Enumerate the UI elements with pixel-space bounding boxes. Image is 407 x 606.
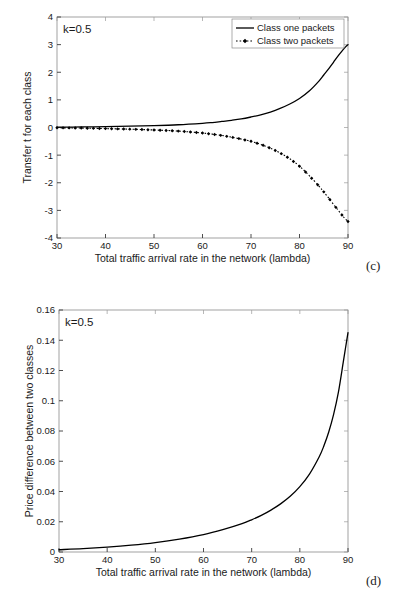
series-marker-1 — [140, 128, 143, 131]
series-marker-1 — [152, 128, 155, 131]
series-marker-1 — [104, 127, 107, 130]
subplot-d: 3040506070809000.020.040.060.080.10.120.… — [0, 290, 407, 606]
series-marker-1 — [158, 129, 161, 132]
x-tick-label: 30 — [52, 240, 63, 251]
x-tick-label: 80 — [294, 240, 305, 251]
x-axis-label: Total traffic arrival rate in the networ… — [96, 566, 312, 578]
y-tick-label: 3 — [48, 39, 53, 50]
y-tick-label: -3 — [45, 205, 53, 216]
y-axis-label: Transfer t for each class — [21, 71, 33, 183]
x-tick-label: 40 — [100, 240, 111, 251]
y-tick-label: 0.16 — [37, 304, 56, 315]
series-marker-1 — [213, 133, 216, 136]
series-marker-1 — [280, 152, 283, 155]
subplot-caption-c: (c) — [366, 258, 380, 274]
series-marker-1 — [231, 136, 234, 139]
series-marker-1 — [116, 127, 119, 130]
series-marker-1 — [170, 129, 173, 132]
chart-d-canvas: 3040506070809000.020.040.060.080.10.120.… — [0, 290, 407, 606]
plot-frame — [59, 310, 348, 552]
chart-c-canvas: 30405060708090-4-3-2-101234Total traffic… — [0, 0, 407, 290]
series-marker-1 — [189, 130, 192, 133]
x-tick-label: 60 — [197, 240, 208, 251]
y-tick-label: 0.08 — [37, 425, 56, 436]
series-marker-1 — [237, 137, 240, 140]
y-tick-label: 1 — [48, 94, 53, 105]
y-tick-label: 0.14 — [37, 335, 56, 346]
series-marker-1 — [195, 131, 198, 134]
subplot-c: 30405060708090-4-3-2-101234Total traffic… — [0, 0, 407, 290]
series-line-0 — [57, 45, 348, 128]
y-tick-label: 0 — [50, 546, 55, 557]
series-marker-1 — [286, 156, 289, 159]
x-tick-label: 70 — [246, 240, 257, 251]
series-marker-1 — [261, 144, 264, 147]
x-tick-label: 30 — [54, 554, 65, 565]
y-tick-label: -2 — [45, 177, 53, 188]
x-tick-label: 90 — [343, 240, 354, 251]
series-marker-1 — [298, 164, 301, 167]
y-tick-label: 4 — [48, 11, 53, 22]
series-marker-1 — [274, 149, 277, 152]
series-marker-1 — [122, 127, 125, 130]
x-tick-label: 50 — [149, 240, 160, 251]
subplot-caption-d: (d) — [366, 573, 381, 589]
y-tick-label: 0 — [48, 122, 53, 133]
series-marker-1 — [207, 132, 210, 135]
legend-label: Class one packets — [257, 22, 335, 33]
x-tick-label: 90 — [343, 554, 354, 565]
y-axis-label: Price difference between two classes — [23, 345, 35, 518]
series-marker-1 — [177, 129, 180, 132]
y-tick-label: 0.04 — [37, 486, 56, 497]
series-line-0 — [59, 333, 348, 550]
series-marker-1 — [267, 146, 270, 149]
x-tick-label: 60 — [198, 554, 209, 565]
series-marker-1 — [322, 190, 325, 193]
series-marker-1 — [128, 127, 131, 130]
y-tick-label: 0.06 — [37, 456, 56, 467]
y-tick-label: 2 — [48, 67, 53, 78]
series-marker-1 — [310, 176, 313, 179]
series-marker-1 — [183, 130, 186, 133]
x-tick-label: 70 — [246, 554, 257, 565]
y-tick-label: 0.1 — [42, 395, 55, 406]
plot-frame — [57, 17, 348, 238]
annotation-k: k=0.5 — [65, 316, 93, 328]
series-marker-1 — [134, 128, 137, 131]
x-tick-label: 50 — [150, 554, 161, 565]
annotation-k: k=0.5 — [63, 23, 91, 35]
series-line-1 — [57, 128, 348, 222]
x-tick-label: 80 — [295, 554, 306, 565]
series-marker-1 — [164, 129, 167, 132]
series-marker-1 — [249, 140, 252, 143]
y-tick-label: -4 — [45, 232, 53, 243]
y-tick-label: 0.12 — [37, 365, 56, 376]
y-tick-label: 0.02 — [37, 516, 56, 527]
series-marker-1 — [340, 213, 343, 216]
series-marker-1 — [201, 131, 204, 134]
series-marker-1 — [225, 135, 228, 138]
x-axis-label: Total traffic arrival rate in the networ… — [95, 252, 311, 264]
series-marker-1 — [146, 128, 149, 131]
legend-label: Class two packets — [257, 35, 334, 46]
series-marker-1 — [219, 134, 222, 137]
series-marker-1 — [243, 138, 246, 141]
series-marker-1 — [110, 127, 113, 130]
x-tick-label: 40 — [102, 554, 113, 565]
y-tick-label: -1 — [45, 150, 53, 161]
series-marker-1 — [255, 142, 258, 145]
series-marker-1 — [292, 160, 295, 163]
figure-container: 30405060708090-4-3-2-101234Total traffic… — [0, 0, 407, 606]
